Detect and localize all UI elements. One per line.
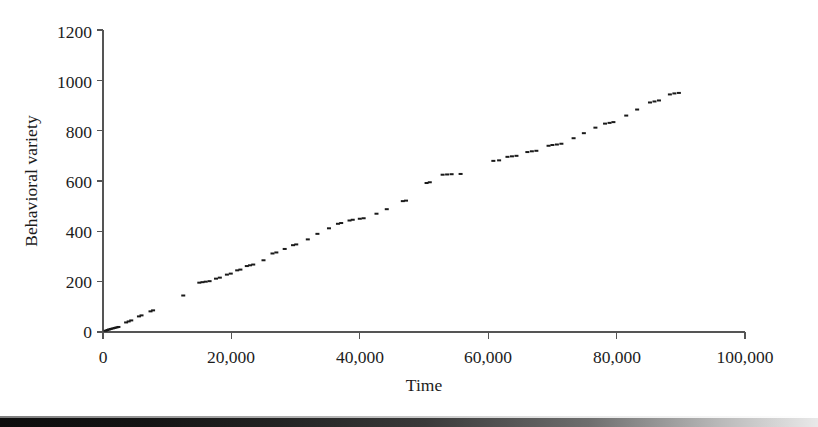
data-point-marker bbox=[608, 122, 612, 124]
data-point-marker bbox=[450, 173, 454, 175]
data-point-marker bbox=[116, 326, 120, 328]
data-point-marker bbox=[572, 137, 576, 139]
data-point-marker bbox=[530, 150, 534, 152]
data-point-marker bbox=[514, 155, 518, 157]
data-point-marker bbox=[404, 200, 408, 202]
data-point-marker bbox=[385, 208, 389, 210]
data-point-marker bbox=[251, 264, 255, 266]
data-point-marker bbox=[181, 295, 185, 297]
data-point-marker bbox=[555, 144, 559, 146]
data-point-marker bbox=[593, 127, 597, 129]
data-point-marker bbox=[582, 132, 586, 134]
data-point-marker bbox=[204, 281, 208, 283]
data-point-marker bbox=[510, 155, 514, 157]
data-point-marker bbox=[428, 181, 432, 183]
data-point-marker bbox=[339, 222, 343, 224]
data-point-marker bbox=[445, 173, 449, 175]
data-point-marker bbox=[652, 100, 656, 102]
data-point-marker bbox=[624, 115, 628, 117]
data-point-marker bbox=[657, 99, 661, 101]
data-point-marker bbox=[358, 218, 362, 220]
data-point-marker bbox=[238, 269, 242, 271]
data-point-marker bbox=[534, 150, 538, 152]
data-point-marker bbox=[603, 123, 607, 125]
data-point-marker bbox=[505, 156, 509, 158]
data-point-marker bbox=[151, 309, 155, 311]
data-point-marker bbox=[351, 219, 355, 221]
data-point-marker bbox=[362, 217, 366, 219]
data-point-marker bbox=[270, 252, 274, 254]
data-point-marker bbox=[374, 213, 378, 215]
data-point-marker bbox=[262, 259, 266, 261]
scan-edge-artifact bbox=[0, 418, 818, 427]
data-point-marker bbox=[229, 273, 233, 275]
plot-area bbox=[0, 0, 818, 427]
data-point-marker bbox=[214, 278, 218, 280]
data-point-marker bbox=[491, 160, 495, 162]
data-point-marker bbox=[559, 143, 563, 145]
data-point-marker bbox=[274, 251, 278, 253]
data-point-marker bbox=[441, 174, 445, 176]
data-point-marker bbox=[315, 233, 319, 235]
data-point-marker bbox=[668, 93, 672, 95]
data-point-marker bbox=[283, 248, 287, 250]
data-point-marker bbox=[208, 280, 212, 282]
data-point-marker bbox=[648, 101, 652, 103]
data-point-marker bbox=[294, 243, 298, 245]
data-point-marker bbox=[459, 173, 463, 175]
data-point-marker bbox=[225, 274, 229, 276]
data-point-marker bbox=[129, 319, 133, 321]
data-point-marker bbox=[525, 151, 529, 153]
data-point-marker bbox=[327, 227, 331, 229]
data-point-marker bbox=[550, 144, 554, 146]
data-point-marker bbox=[635, 109, 639, 111]
scatter-chart-figure: Behavioral variety 1200 1000 800 600 400… bbox=[0, 0, 818, 427]
data-point-marker bbox=[218, 277, 222, 279]
data-point-marker bbox=[497, 159, 501, 161]
data-series-points bbox=[104, 92, 681, 332]
data-point-marker bbox=[672, 92, 676, 94]
data-point-marker bbox=[611, 121, 615, 123]
data-point-marker bbox=[547, 145, 551, 147]
data-point-marker bbox=[140, 314, 144, 316]
data-point-marker bbox=[677, 92, 681, 94]
data-point-marker bbox=[306, 238, 310, 240]
